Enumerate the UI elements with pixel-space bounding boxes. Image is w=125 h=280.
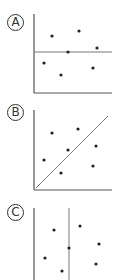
- data-point: [94, 144, 97, 147]
- data-point: [91, 164, 94, 167]
- data-point: [66, 148, 69, 151]
- data-point: [77, 29, 80, 32]
- data-point: [43, 256, 46, 259]
- data-point: [95, 46, 98, 49]
- scatter-panel-b: [34, 110, 112, 190]
- diagonal-reference-line: [36, 116, 108, 188]
- data-point: [59, 171, 62, 174]
- data-point: [52, 228, 55, 231]
- data-point: [97, 242, 100, 245]
- data-point: [42, 61, 45, 64]
- data-point: [94, 262, 97, 265]
- scatter-panel-a: [34, 14, 112, 93]
- data-point: [91, 66, 94, 69]
- data-point: [76, 127, 79, 130]
- scatter-panel-c: [34, 208, 101, 280]
- data-point: [50, 34, 53, 37]
- data-point: [42, 158, 45, 161]
- data-point: [60, 269, 63, 272]
- data-point: [66, 50, 69, 53]
- data-point: [59, 73, 62, 76]
- scatter-diagrams: [0, 0, 125, 280]
- data-point: [50, 131, 53, 134]
- data-point: [67, 246, 70, 249]
- data-point: [78, 224, 81, 227]
